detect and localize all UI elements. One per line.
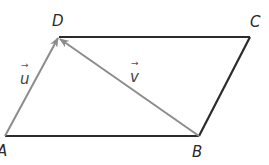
- vector-label-u: u: [20, 70, 30, 88]
- vector-u-arrow: [5, 38, 58, 136]
- vertex-label-b: B: [192, 143, 202, 161]
- vector-v-arrow-accent: →: [131, 58, 139, 68]
- parallelogram-diagram: D C A B → u → v: [0, 0, 269, 165]
- vertex-label-d: D: [52, 12, 64, 30]
- vertex-label-c: C: [250, 13, 261, 31]
- vector-v-arrow: [60, 39, 199, 136]
- edge-b-c: [199, 37, 250, 136]
- vector-label-v: v: [130, 68, 140, 86]
- vector-u-arrow-accent: →: [21, 60, 29, 70]
- vertex-label-a: A: [0, 142, 7, 160]
